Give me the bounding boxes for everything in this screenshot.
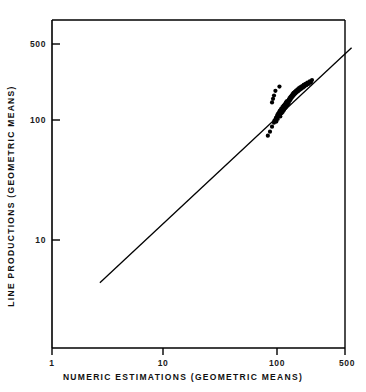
scatter-chart: [0, 0, 366, 392]
y-axis-title: LINE PRODUCTIONS (GEOMETRIC MEANS): [6, 46, 16, 346]
x-tick-label-100: 100: [269, 358, 285, 368]
data-point: [273, 89, 277, 93]
data-point: [277, 84, 281, 88]
x-tick-label-1: 1: [49, 358, 54, 368]
data-point: [270, 100, 274, 104]
y-tick-label-100: 100: [20, 115, 46, 125]
chart-background: [0, 0, 366, 392]
x-tick-label-500: 500: [339, 358, 355, 368]
data-point: [272, 93, 276, 97]
data-point: [310, 78, 314, 82]
x-axis-title: NUMERIC ESTIMATIONS (GEOMETRIC MEANS): [0, 372, 366, 382]
data-point: [270, 125, 274, 129]
data-point: [268, 130, 272, 134]
y-tick-label-10: 10: [20, 235, 46, 245]
x-tick-label-10: 10: [158, 358, 169, 368]
data-point: [266, 134, 270, 138]
y-tick-label-500: 500: [20, 39, 46, 49]
